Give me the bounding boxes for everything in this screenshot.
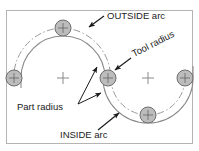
outside-arc-label: OUTSIDE arc xyxy=(107,10,165,21)
top-tool-circle xyxy=(55,20,71,36)
right-tool-circle xyxy=(177,70,193,86)
bottom-tool-circle xyxy=(140,107,156,123)
arc-tool-radius-diagram: OUTSIDE arc Tool radius Part radius INSI… xyxy=(0,0,199,151)
left-tool-circle xyxy=(6,70,22,86)
part-radius-label: Part radius xyxy=(17,101,63,112)
center-tool-circle xyxy=(100,70,116,86)
inside-arc-label: INSIDE arc xyxy=(60,129,108,140)
